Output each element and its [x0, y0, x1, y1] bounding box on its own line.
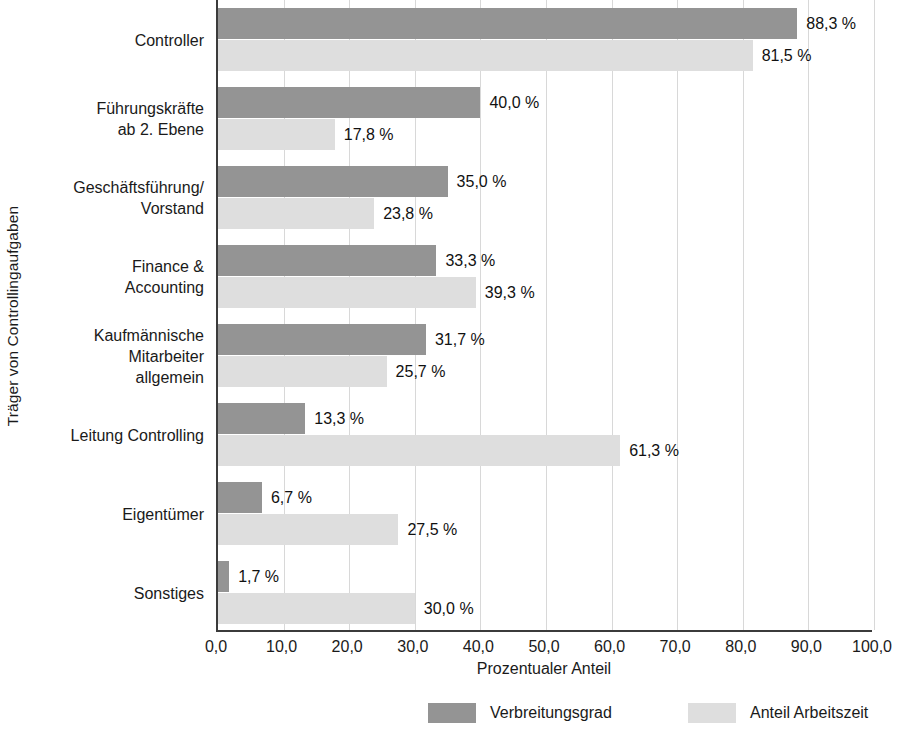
x-axis-tick-label: 60,0: [594, 638, 625, 656]
bar-value-label: 6,7 %: [271, 490, 312, 506]
bar-value-label: 27,5 %: [407, 522, 457, 538]
bar-value-label: 88,3 %: [806, 16, 856, 32]
bar-value-label: 39,3 %: [485, 285, 535, 301]
bar: [218, 40, 753, 71]
x-axis-ticks: 0,010,020,030,040,050,060,070,080,090,01…: [216, 634, 872, 660]
bar: [218, 87, 480, 118]
x-axis-tick-label: 90,0: [791, 638, 822, 656]
x-axis-tick-label: 10,0: [266, 638, 297, 656]
category-label: Leitung Controlling: [20, 424, 204, 445]
bar: [218, 482, 262, 513]
bar: [218, 356, 387, 387]
category-label: Geschäftsführung/ Vorstand: [20, 177, 204, 219]
y-axis-title-text: Träger von Controllingaufgaben: [4, 206, 22, 426]
category-label: Finance & Accounting: [20, 256, 204, 298]
legend-swatch: [688, 703, 736, 723]
bar: [218, 245, 436, 276]
legend-label: Verbreitungsgrad: [490, 704, 612, 722]
bar-value-label: 33,3 %: [445, 253, 495, 269]
gridline: [874, 0, 875, 630]
bar-value-label: 30,0 %: [424, 601, 474, 617]
bar: [218, 277, 476, 308]
bar: [218, 119, 335, 150]
bar: [218, 593, 415, 624]
x-axis-tick-label: 0,0: [205, 638, 227, 656]
bar-value-label: 40,0 %: [489, 95, 539, 111]
bar-value-label: 81,5 %: [762, 48, 812, 64]
bar-value-label: 35,0 %: [457, 174, 507, 190]
bar: [218, 8, 797, 39]
category-label: Eigentümer: [20, 503, 204, 524]
legend-item: Anteil Arbeitszeit: [688, 700, 868, 726]
bar-value-label: 13,3 %: [314, 411, 364, 427]
bar: [218, 198, 374, 229]
x-axis-tick-label: 70,0: [660, 638, 691, 656]
bar: [218, 166, 448, 197]
bar-chart-figure: Träger von Controllingaufgaben Controlle…: [0, 0, 903, 743]
category-label-column: ControllerFührungskräfte ab 2. EbeneGesc…: [26, 0, 210, 632]
bar: [218, 514, 398, 545]
bar-value-label: 61,3 %: [629, 443, 679, 459]
x-axis-tick-label: 30,0: [397, 638, 428, 656]
bar-series-container: 88,3 %81,5 %40,0 %17,8 %35,0 %23,8 %33,3…: [218, 0, 872, 630]
bar: [218, 561, 229, 592]
y-axis-title: Träger von Controllingaufgaben: [0, 0, 26, 632]
legend-swatch: [428, 703, 476, 723]
chart-legend: VerbreitungsgradAnteil Arbeitszeit: [420, 700, 903, 732]
category-label: Kaufmännische Mitarbeiter allgemein: [20, 324, 204, 387]
x-axis-tick-label: 80,0: [725, 638, 756, 656]
legend-item: Verbreitungsgrad: [428, 700, 612, 726]
bar: [218, 435, 620, 466]
bar-value-label: 31,7 %: [435, 332, 485, 348]
category-label: Führungskräfte ab 2. Ebene: [20, 98, 204, 140]
legend-label: Anteil Arbeitszeit: [750, 704, 868, 722]
bar-value-label: 23,8 %: [383, 206, 433, 222]
bar: [218, 324, 426, 355]
bar-value-label: 17,8 %: [344, 127, 394, 143]
x-axis-title: Prozentualer Anteil: [216, 660, 872, 678]
x-axis-tick-label: 40,0: [463, 638, 494, 656]
plot-area: 88,3 %81,5 %40,0 %17,8 %35,0 %23,8 %33,3…: [216, 0, 872, 632]
bar-value-label: 25,7 %: [396, 364, 446, 380]
x-axis-tick-label: 50,0: [528, 638, 559, 656]
category-label: Controller: [20, 29, 204, 50]
bar: [218, 403, 305, 434]
x-axis-tick-label: 100,0: [852, 638, 892, 656]
x-axis-tick-label: 20,0: [332, 638, 363, 656]
bar-value-label: 1,7 %: [238, 569, 279, 585]
category-label: Sonstiges: [20, 582, 204, 603]
